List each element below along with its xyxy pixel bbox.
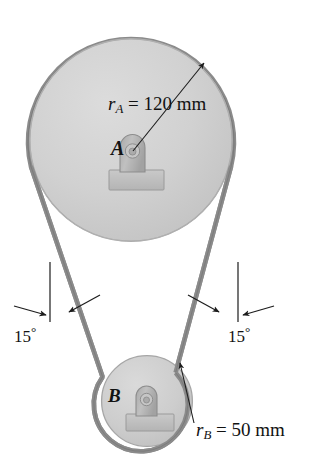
diagram-canvas: [0, 0, 314, 465]
pulley-a-base-plate: [109, 170, 164, 190]
radius-b-value: = 50 mm: [211, 419, 285, 440]
angle-right-label: 15°: [228, 325, 250, 345]
pulley-b-label: B: [108, 386, 121, 405]
angle-right-value: 15: [228, 327, 245, 346]
angle-left-degree-sign: °: [31, 324, 36, 339]
radius-a-value: = 120 mm: [123, 93, 206, 114]
angle-left-label: 15°: [14, 325, 36, 345]
pulley-belt-figure: rA = 120 mm rB = 50 mm A B 15° 15°: [0, 0, 314, 465]
radius-b-symbol: rB: [196, 419, 211, 440]
angle-right-arrow-outer: [243, 306, 274, 315]
radius-b-label: rB = 50 mm: [196, 420, 285, 442]
pulley-a-label: A: [111, 138, 124, 158]
angle-left-annotation: [14, 262, 100, 322]
radius-a-label: rA = 120 mm: [108, 94, 206, 116]
angle-left-arrow-outer: [14, 306, 46, 315]
pulley-b-pin-inner: [144, 397, 150, 403]
angle-left-value: 15: [14, 327, 31, 346]
angle-right-degree-sign: °: [245, 324, 250, 339]
radius-a-symbol: rA: [108, 93, 123, 114]
